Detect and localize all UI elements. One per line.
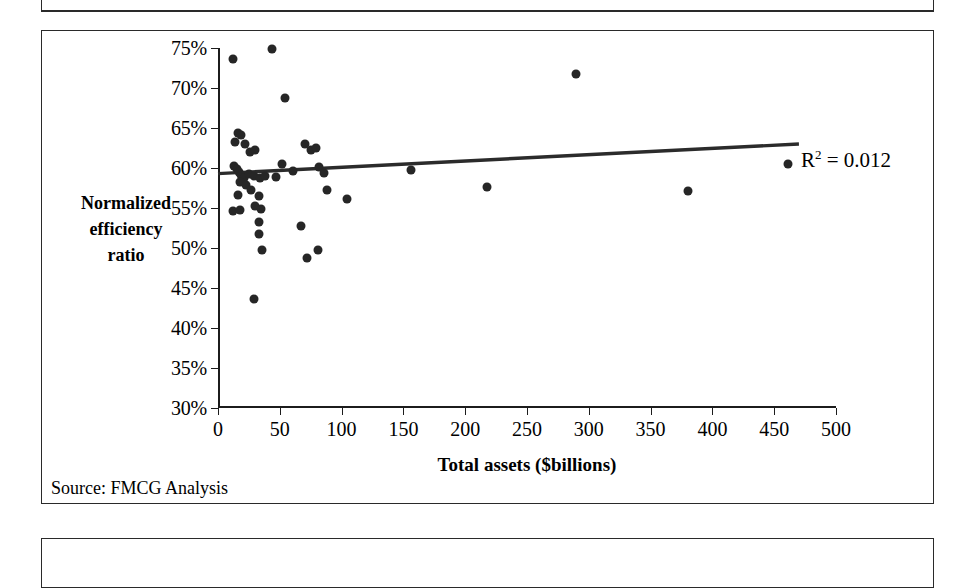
x-tick-label: 50 xyxy=(270,419,290,439)
x-tick-mark xyxy=(774,408,775,415)
data-point xyxy=(289,167,298,176)
y-tick-label: 35% xyxy=(171,358,207,378)
y-tick-label: 55% xyxy=(171,198,207,218)
data-point xyxy=(302,254,311,263)
x-axis-title: Total assets ($billions) xyxy=(218,454,836,476)
data-point xyxy=(254,192,263,201)
y-tick-label: 75% xyxy=(171,38,207,58)
y-tick-mark xyxy=(211,408,218,409)
y-tick-label: 60% xyxy=(171,158,207,178)
data-point xyxy=(296,222,305,231)
data-point xyxy=(251,146,260,155)
document-box-below xyxy=(41,538,934,588)
data-point xyxy=(257,204,266,213)
data-point xyxy=(258,246,267,255)
x-tick-mark xyxy=(651,408,652,415)
plot-area: 30%35%40%45%50%55%60%65%70%75% 050100150… xyxy=(218,48,836,408)
data-point xyxy=(236,205,245,214)
x-tick-mark xyxy=(836,408,837,415)
data-point xyxy=(254,229,263,238)
x-tick-label: 300 xyxy=(574,419,604,439)
x-tick-label: 350 xyxy=(636,419,666,439)
data-point xyxy=(272,172,281,181)
y-tick-mark xyxy=(211,328,218,329)
y-tick-mark xyxy=(211,368,218,369)
data-point xyxy=(320,168,329,177)
r-squared-annotation: R2 = 0.012 xyxy=(801,148,891,171)
data-point xyxy=(233,191,242,200)
data-point xyxy=(783,160,792,169)
y-tick-mark xyxy=(211,248,218,249)
x-tick-mark xyxy=(342,408,343,415)
data-point xyxy=(406,165,415,174)
y-tick-mark xyxy=(211,48,218,49)
x-tick-label: 450 xyxy=(759,419,789,439)
data-point xyxy=(268,44,277,53)
data-point xyxy=(228,55,237,64)
x-tick-mark xyxy=(712,408,713,415)
x-tick-mark xyxy=(280,408,281,415)
x-tick-label: 200 xyxy=(450,419,480,439)
data-point xyxy=(322,185,331,194)
y-tick-mark xyxy=(211,288,218,289)
y-tick-mark xyxy=(211,208,218,209)
y-tick-mark xyxy=(211,88,218,89)
y-tick-mark xyxy=(211,168,218,169)
y-tick-label: 40% xyxy=(171,318,207,338)
document-box-above xyxy=(41,0,934,12)
x-tick-mark xyxy=(589,408,590,415)
data-point xyxy=(342,195,351,204)
data-point xyxy=(572,70,581,79)
r-squared-prefix: R xyxy=(801,148,815,172)
data-point xyxy=(314,245,323,254)
x-tick-label: 0 xyxy=(213,419,223,439)
scatter-chart-figure: Normalized efficiency ratio 30%35%40%45%… xyxy=(41,30,934,504)
source-note: Source: FMCG Analysis xyxy=(51,479,228,497)
r-squared-value: = 0.012 xyxy=(822,148,892,172)
y-tick-label: 50% xyxy=(171,238,207,258)
data-point xyxy=(280,93,289,102)
data-point xyxy=(278,160,287,169)
data-point xyxy=(311,144,320,153)
y-tick-label: 45% xyxy=(171,278,207,298)
data-point xyxy=(683,187,692,196)
y-tick-label: 65% xyxy=(171,118,207,138)
x-tick-label: 400 xyxy=(697,419,727,439)
x-tick-label: 150 xyxy=(388,419,418,439)
data-point xyxy=(260,172,269,181)
data-point xyxy=(254,218,263,227)
data-point xyxy=(483,183,492,192)
x-tick-label: 100 xyxy=(327,419,357,439)
x-tick-mark xyxy=(465,408,466,415)
x-tick-label: 250 xyxy=(512,419,542,439)
data-point xyxy=(249,295,258,304)
x-tick-label: 500 xyxy=(821,419,851,439)
y-tick-mark xyxy=(211,128,218,129)
trendline xyxy=(218,48,836,408)
x-tick-mark xyxy=(527,408,528,415)
y-tick-label: 70% xyxy=(171,78,207,98)
y-tick-label: 30% xyxy=(171,398,207,418)
x-tick-mark xyxy=(218,408,219,415)
data-point xyxy=(231,137,240,146)
x-tick-mark xyxy=(403,408,404,415)
